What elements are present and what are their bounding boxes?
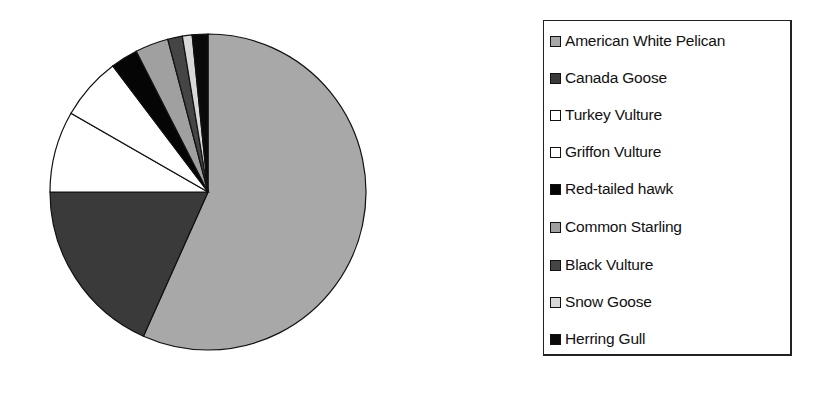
legend-item: Canada Goose [550,68,667,88]
legend-swatch [550,36,561,47]
legend-swatch [550,334,561,345]
legend-swatch [550,260,561,271]
legend-label: Griffon Vulture [565,143,661,161]
legend-label: Snow Goose [565,293,652,311]
legend-swatch [550,147,561,158]
legend-item: Black Vulture [550,255,653,275]
legend-item: Common Starling [550,217,682,237]
legend-label: Black Vulture [565,256,653,274]
legend-swatch [550,73,561,84]
legend-label: Red-tailed hawk [565,180,673,198]
legend-item: Griffon Vulture [550,142,661,162]
legend-swatch [550,297,561,308]
legend-item: Turkey Vulture [550,105,662,125]
legend-swatch [550,110,561,121]
legend-label: Common Starling [565,218,682,236]
legend-swatch [550,184,561,195]
legend-label: Turkey Vulture [565,106,662,124]
legend-label: American White Pelican [565,32,725,50]
legend-item: Herring Gull [550,329,645,349]
legend-swatch [550,222,561,233]
legend-label: Herring Gull [565,330,645,348]
legend-item: Red-tailed hawk [550,179,673,199]
chart-legend: American White Pelican Canada Goose Turk… [543,20,792,356]
legend-label: Canada Goose [565,69,667,87]
legend-item: American White Pelican [550,31,725,51]
legend-item: Snow Goose [550,292,652,312]
